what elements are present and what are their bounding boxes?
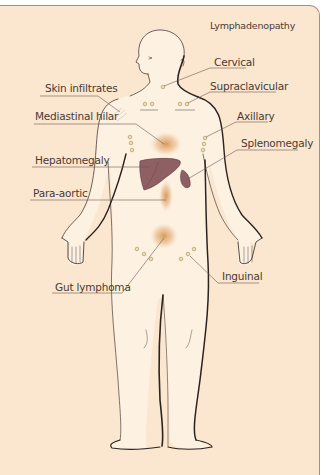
inguinal-node-left (142, 252, 146, 256)
inguinal-node-right (186, 252, 190, 256)
label-inguinal: Inguinal (222, 270, 262, 282)
inguinal-node-left (149, 257, 153, 261)
axillary-node-left (130, 148, 134, 152)
label-cervical: Cervical (214, 56, 255, 68)
supraclavicular-node-left (143, 102, 147, 106)
inguinal-node-right (179, 257, 183, 261)
supraclavicular-node-left (150, 102, 154, 106)
axillary-node-right (202, 142, 206, 146)
supraclavicular-node-right (178, 102, 182, 106)
diagram-title: Lymphadenopathy (210, 20, 295, 32)
label-hepatomegaly: Hepatomegaly (35, 154, 110, 166)
axillary-node-left (129, 141, 133, 145)
label-splenomegaly: Splenomegaly (241, 137, 313, 149)
label-supraclavicular: Supraclavicular (210, 80, 288, 92)
gut-mass (150, 223, 178, 249)
label-gut-lymphoma: Gut lymphoma (55, 281, 131, 293)
label-skin-infiltrates: Skin infiltrates (45, 82, 117, 94)
inguinal-node-left (135, 247, 139, 251)
para-aortic-mass (159, 180, 173, 212)
axillary-node-left (128, 135, 132, 139)
label-mediastinal-hilar: Mediastinal hilar (35, 110, 118, 122)
label-axillary: Axillary (237, 110, 275, 122)
mediastinal-mass (150, 132, 182, 156)
inguinal-node-right (192, 247, 196, 251)
label-para-aortic: Para-aortic (33, 187, 88, 199)
axillary-node-right (201, 148, 205, 152)
